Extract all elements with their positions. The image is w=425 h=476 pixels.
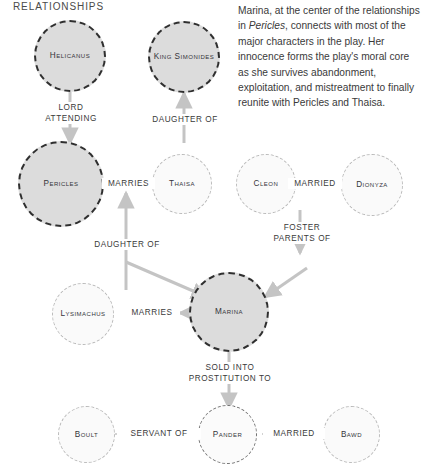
node-cleon[interactable]: Cleon [236, 154, 296, 214]
edge-label-married-cleon-dionyza: MARRIED [288, 178, 342, 189]
edge-label-married-pander-bawd: MARRIED [263, 428, 325, 439]
node-dionyza[interactable]: Dionyza [341, 154, 403, 216]
description-text: Marina, at the center of the relationshi… [238, 3, 420, 111]
node-helicanus[interactable]: Helicanus [34, 20, 106, 92]
page-title: RELATIONSHIPS [13, 1, 104, 12]
edge-label-foster-parents-of: FOSTER PARENTS OF [265, 222, 339, 244]
node-label: Bawd [338, 430, 365, 440]
edge-label-daughter-of-simonides: DAUGHTER OF [137, 114, 233, 125]
node-label: Helicanus [47, 51, 93, 61]
relationship-diagram: RELATIONSHIPS Marina, at the center of t… [0, 0, 425, 476]
edge-foster-to-marina [265, 268, 307, 297]
edge-label-sold-into-prostitution-to: SOLD INTO PROSTITUTION TO [170, 362, 290, 384]
node-boult[interactable]: Boult [58, 406, 115, 463]
node-label: Pander [210, 430, 245, 440]
edge-label-marries-lysimachus-marina: MARRIES [124, 307, 180, 318]
node-label: Dionyza [353, 180, 391, 190]
node-lysimachus[interactable]: Lysimachus [52, 283, 114, 345]
node-label: Thaisa [166, 179, 198, 189]
node-label: Pericles [40, 179, 81, 189]
edge-label-marries-pericles-thaisa: MARRIES [102, 178, 155, 189]
edge-label-servant-of: SERVANT OF [117, 428, 201, 439]
node-thaisa[interactable]: Thaisa [152, 154, 212, 214]
node-pander[interactable]: Pander [198, 405, 257, 464]
node-pericles[interactable]: Pericles [18, 141, 104, 227]
node-label: Cleon [251, 179, 282, 189]
node-bawd[interactable]: Bawd [323, 406, 380, 463]
edge-label-daughter-of-marina: DAUGHTER OF [79, 239, 175, 250]
node-label: Lysimachus [57, 309, 108, 319]
node-marina[interactable]: Marina [189, 272, 269, 352]
description-italic-title: Pericles [249, 20, 285, 31]
description-part2: , connects with most of the major charac… [238, 20, 414, 108]
node-label: Marina [212, 307, 246, 317]
node-label: King Simonides [151, 52, 218, 62]
node-king-simonides[interactable]: King Simonides [148, 21, 220, 93]
node-label: Boult [72, 430, 102, 440]
edge-label-lord-attending: LORD ATTENDING [33, 102, 109, 124]
